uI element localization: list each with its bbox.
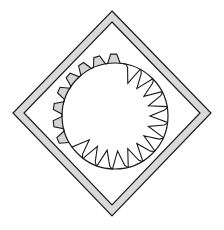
diagram-canvas [0,0,224,230]
diamond-frame [13,11,211,216]
gear-in-diamond-diagram [0,0,224,230]
gear-tooth-outline [53,54,167,169]
